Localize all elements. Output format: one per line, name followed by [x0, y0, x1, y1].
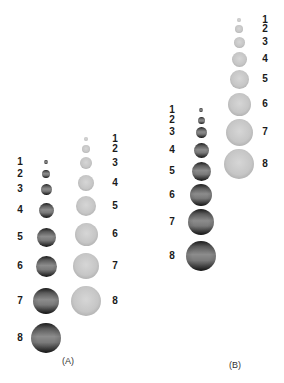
sphere-label: 4 — [112, 178, 118, 188]
dark-sphere-5 — [37, 228, 56, 247]
dark-sphere-1 — [44, 160, 48, 164]
sphere-label: 5 — [112, 201, 118, 211]
light-sphere-2 — [82, 145, 90, 153]
dark-sphere-1 — [199, 108, 203, 112]
light-sphere-1 — [237, 18, 241, 22]
light-sphere-7 — [226, 119, 253, 146]
light-sphere-4 — [78, 175, 94, 191]
dark-sphere-3 — [196, 127, 207, 138]
light-sphere-6 — [228, 93, 251, 116]
sphere-label: 2 — [169, 115, 175, 125]
panel-caption: (A) — [62, 356, 74, 366]
dark-sphere-7 — [33, 288, 59, 314]
light-sphere-3 — [234, 37, 245, 48]
dark-sphere-6 — [190, 184, 212, 206]
sphere-label: 3 — [169, 127, 175, 137]
dark-sphere-4 — [39, 203, 54, 218]
sphere-label: 5 — [169, 166, 175, 176]
sphere-label: 7 — [112, 261, 118, 271]
dark-sphere-4 — [194, 143, 209, 158]
dark-sphere-8 — [31, 323, 61, 353]
sphere-label: 5 — [262, 74, 268, 84]
light-sphere-5 — [230, 70, 249, 89]
light-sphere-5 — [76, 196, 96, 216]
sphere-label: 7 — [169, 217, 175, 227]
sphere-label: 8 — [112, 296, 118, 306]
sphere-label: 8 — [169, 251, 175, 261]
sphere-label: 8 — [17, 333, 23, 343]
sphere-label: 4 — [262, 54, 268, 64]
sphere-label: 6 — [262, 99, 268, 109]
sphere-label: 2 — [262, 24, 268, 34]
light-sphere-3 — [80, 157, 92, 169]
dark-sphere-2 — [198, 117, 205, 124]
dark-sphere-8 — [186, 241, 216, 271]
sphere-label: 6 — [112, 229, 118, 239]
light-sphere-4 — [232, 52, 247, 67]
sphere-label: 1 — [17, 157, 23, 167]
dark-sphere-3 — [41, 184, 52, 195]
sphere-label: 5 — [17, 232, 23, 242]
sphere-label: 3 — [112, 158, 118, 168]
light-sphere-2 — [235, 25, 243, 33]
sphere-label: 8 — [262, 159, 268, 169]
sphere-label: 7 — [17, 296, 23, 306]
light-sphere-6 — [75, 223, 98, 246]
sphere-label: 3 — [17, 184, 23, 194]
dark-sphere-6 — [36, 256, 57, 277]
light-sphere-8 — [224, 149, 254, 179]
panel-caption: (B) — [229, 360, 241, 370]
sphere-label: 6 — [17, 261, 23, 271]
sphere-label: 6 — [169, 190, 175, 200]
dark-sphere-2 — [42, 170, 50, 178]
dark-sphere-5 — [192, 162, 211, 181]
sphere-label: 7 — [262, 127, 268, 137]
sphere-label: 4 — [169, 145, 175, 155]
light-sphere-7 — [73, 253, 99, 279]
sphere-label: 3 — [262, 37, 268, 47]
light-sphere-8 — [71, 286, 101, 316]
dark-sphere-7 — [188, 209, 214, 235]
sphere-label: 2 — [112, 144, 118, 154]
sphere-label: 4 — [17, 205, 23, 215]
light-sphere-1 — [84, 137, 88, 141]
sphere-label: 2 — [17, 169, 23, 179]
